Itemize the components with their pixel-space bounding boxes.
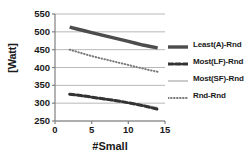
series-line xyxy=(70,50,158,72)
legend-item[interactable]: Most(SF)-Rnd xyxy=(168,70,250,87)
legend-swatch-icon xyxy=(168,90,188,102)
chart-legend: Least(A)-RndMost(LF)-RndMost(SF)-RndRnd-… xyxy=(168,36,250,104)
legend-swatch-icon xyxy=(168,73,188,85)
legend-label: Most(LF)-Rnd xyxy=(193,57,243,66)
series-line xyxy=(70,27,158,48)
legend-label: Rnd-Rnd xyxy=(193,91,226,100)
legend-swatch-icon xyxy=(168,56,188,68)
legend-item[interactable]: Rnd-Rnd xyxy=(168,87,250,104)
legend-label: Least(A)-Rnd xyxy=(193,40,241,49)
legend-label: Most(SF)-Rnd xyxy=(193,74,244,83)
legend-item[interactable]: Least(A)-Rnd xyxy=(168,36,250,53)
legend-swatch-icon xyxy=(168,39,188,51)
chart-figure: [Watt] #Small 550500450400350300250 0510… xyxy=(0,0,250,158)
legend-item[interactable]: Most(LF)-Rnd xyxy=(168,53,250,70)
